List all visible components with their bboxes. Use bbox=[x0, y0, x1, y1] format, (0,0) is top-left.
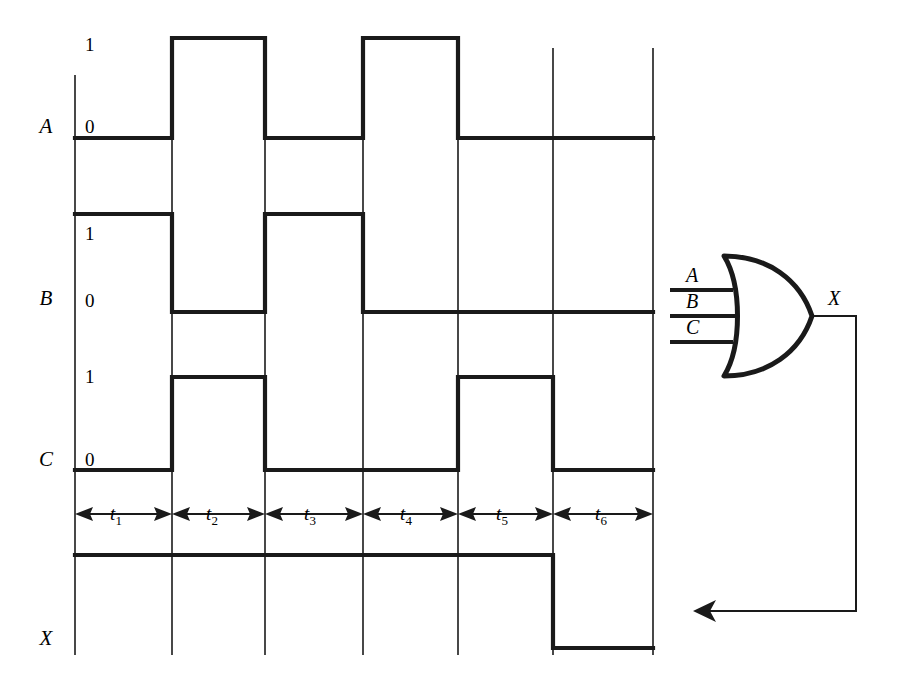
waveform-a-trace bbox=[75, 38, 653, 138]
waveform-c-trace bbox=[75, 377, 653, 470]
or-gate-body bbox=[724, 256, 812, 376]
gate-output-label-x: X bbox=[827, 287, 841, 309]
level-label-b-high: 1 bbox=[85, 223, 95, 244]
waveform-label-a: A bbox=[38, 114, 53, 138]
gate-input-label-b: B bbox=[686, 290, 698, 312]
interval-label-t2: t2 bbox=[206, 503, 218, 528]
interval-arrow-t2 bbox=[172, 507, 265, 521]
waveform-label-c: C bbox=[39, 447, 54, 471]
timing-diagram-canvas: A B C X 1 0 1 0 1 0 t1 t2 t3 t4 t5 bbox=[0, 0, 900, 682]
level-label-b-low: 0 bbox=[85, 290, 95, 311]
interval-arrow-t1 bbox=[75, 507, 172, 521]
gate-input-label-a: A bbox=[684, 264, 699, 286]
level-label-c-low: 0 bbox=[85, 449, 95, 470]
waveform-label-x: X bbox=[39, 626, 54, 650]
waveform-b-trace bbox=[75, 214, 653, 312]
waveform-label-b: B bbox=[40, 286, 53, 310]
interval-label-t6: t6 bbox=[595, 503, 607, 528]
interval-label-t4: t4 bbox=[400, 503, 412, 528]
level-label-a-high: 1 bbox=[85, 34, 95, 55]
level-label-c-high: 1 bbox=[85, 366, 95, 387]
timing-diagram-figure: A B C X 1 0 1 0 1 0 t1 t2 t3 t4 t5 bbox=[0, 0, 900, 682]
interval-label-t5: t5 bbox=[496, 503, 508, 528]
time-interval-arrows bbox=[75, 507, 653, 521]
waveform-x-trace bbox=[75, 555, 653, 648]
interval-label-t1: t1 bbox=[110, 503, 122, 528]
interval-label-t3: t3 bbox=[304, 503, 316, 528]
level-label-a-low: 0 bbox=[85, 116, 95, 137]
gate-input-label-c: C bbox=[686, 316, 700, 338]
